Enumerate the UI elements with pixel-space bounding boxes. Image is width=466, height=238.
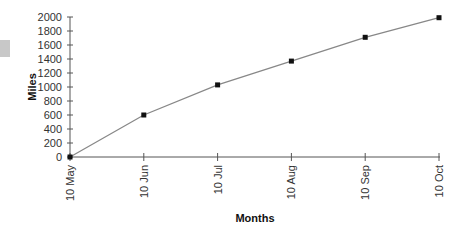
x-tick-label: 10 May xyxy=(64,165,76,202)
y-tick-label: 1000 xyxy=(38,81,62,93)
data-point-marker xyxy=(437,15,442,20)
data-point-marker xyxy=(141,113,146,118)
y-axis: 0200400600800100012001400160018002000 xyxy=(38,11,73,163)
y-tick-label: 200 xyxy=(44,137,62,149)
data-point-marker xyxy=(289,59,294,64)
y-tick-label: 400 xyxy=(44,123,62,135)
data-point-marker xyxy=(68,155,73,160)
x-axis: 10 May10 Jun10 Jul10 Aug10 Sep10 Oct xyxy=(64,153,445,201)
y-tick-label: 1200 xyxy=(38,67,62,79)
data-point-marker xyxy=(215,82,220,87)
y-tick-label: 1600 xyxy=(38,39,62,51)
x-axis-title: Months xyxy=(235,212,274,224)
y-tick-label: 1400 xyxy=(38,53,62,65)
x-tick-label: 10 Aug xyxy=(285,165,297,199)
y-tick-label: 800 xyxy=(44,95,62,107)
y-tick-label: 600 xyxy=(44,109,62,121)
line-chart: 0200400600800100012001400160018002000 10… xyxy=(0,0,466,238)
data-series xyxy=(68,15,442,159)
y-tick-label: 0 xyxy=(56,151,62,163)
x-tick-label: 10 Oct xyxy=(433,165,445,197)
series-line xyxy=(70,18,439,157)
x-tick-label: 10 Jul xyxy=(212,165,224,194)
y-tick-label: 1800 xyxy=(38,25,62,37)
x-tick-label: 10 Sep xyxy=(359,165,371,200)
y-tick-label: 2000 xyxy=(38,11,62,23)
x-tick-label: 10 Jun xyxy=(138,165,150,198)
data-point-marker xyxy=(363,35,368,40)
y-axis-title: Miles xyxy=(26,73,38,101)
